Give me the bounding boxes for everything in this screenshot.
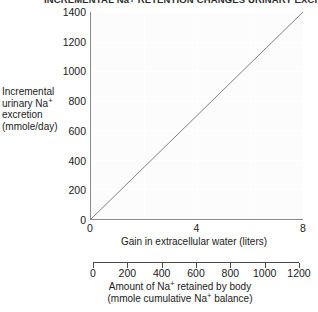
secondary-axis-title-line2-text: (mmole cumulative Na xyxy=(107,293,206,304)
secondary-axis-title-line2-tail: balance) xyxy=(211,293,252,304)
y-axis-title-line2-text: urinary Na xyxy=(2,98,48,109)
secondary-axis-tick-labels: 0 200 400 600 800 1000 1200 xyxy=(93,267,299,280)
secondary-axis-title-line1-text: Amount of Na xyxy=(109,281,170,292)
secondary-axis-title-line2: (mmole cumulative Na+ balance) xyxy=(55,293,305,305)
plot-area xyxy=(90,12,303,220)
y-axis-title-line1: Incremental xyxy=(2,86,76,98)
x-axis-title: Gain in extracellular water (liters) xyxy=(70,236,318,248)
superscript-plus: + xyxy=(48,95,52,104)
series-line-segment xyxy=(91,12,303,219)
secondary-axis-title: Amount of Na+ retained by body (mmole cu… xyxy=(55,281,305,306)
y-tick-1200: 1200 xyxy=(50,37,86,48)
x-tick-0: 0 xyxy=(70,222,110,234)
y-axis-title-line4: (mmole/day) xyxy=(2,121,76,133)
x-tick-4: 4 xyxy=(177,222,217,234)
y-axis-title-line2: urinary Na+ xyxy=(2,98,76,110)
secondary-axis-title-line1: Amount of Na+ retained by body xyxy=(55,281,305,293)
y-tick-400: 400 xyxy=(50,156,86,167)
y-axis-title-line3: excretion xyxy=(2,109,76,121)
y-axis-title: Incremental urinary Na+ excretion (mmole… xyxy=(2,86,76,132)
data-series-line xyxy=(91,12,303,219)
y-tick-1400: 1400 xyxy=(50,7,86,18)
secondary-axis-title-line1-tail: retained by body xyxy=(174,281,251,292)
x-tick-8: 8 xyxy=(283,222,318,234)
y-tick-200: 200 xyxy=(50,185,86,196)
plot-inner xyxy=(91,12,303,219)
y-tick-1000: 1000 xyxy=(50,66,86,77)
secondary-tick-1200: 1200 xyxy=(277,267,318,279)
x-axis-tick-labels: 0 4 8 xyxy=(90,222,303,235)
chart-title: INCREMENTAL Na+ RETENTION CHANGES URINAR… xyxy=(44,0,318,4)
